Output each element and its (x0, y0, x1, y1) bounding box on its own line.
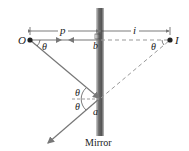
label-b: b (93, 40, 98, 51)
label-theta-reflected: θ (75, 101, 80, 112)
plane-mirror-diagram: p i O I b a θ θ θ θ Mirror (0, 0, 189, 151)
image-point (167, 37, 172, 42)
label-theta-i: θ (151, 41, 156, 52)
label-a: a (93, 106, 98, 117)
object-point (27, 37, 32, 42)
label-i: i (133, 24, 136, 36)
label-theta-o: θ (42, 41, 47, 52)
angle-arc-at-o (37, 40, 40, 46)
label-theta-incident: θ (75, 87, 80, 98)
label-image: I (174, 34, 180, 46)
label-object: O (18, 34, 26, 46)
label-p: p (59, 24, 66, 36)
dashed-virtual-ray (101, 40, 170, 98)
angle-arc-at-i (162, 40, 164, 45)
mirror-caption: Mirror (85, 137, 112, 148)
incident-ray (30, 40, 99, 98)
